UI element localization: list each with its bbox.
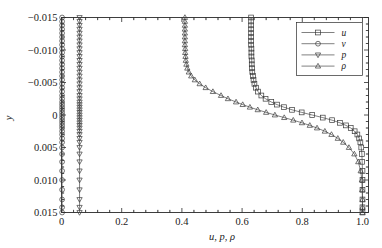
- series-rho: [182, 15, 365, 215]
- y-axis-tick-labels: −0.015−0.010−0.00500.0050.0100.015: [28, 12, 58, 218]
- line-chart: 00.20.40.60.81.0 −0.015−0.010−0.00500.00…: [0, 0, 382, 248]
- y-axis-label: y: [3, 115, 14, 121]
- data-point-marker: [315, 53, 320, 58]
- y-tick-label: 0.005: [34, 142, 58, 153]
- data-point-marker: [203, 85, 208, 90]
- x-tick-label: 0.2: [115, 216, 128, 227]
- data-point-marker: [218, 93, 223, 98]
- x-tick-label: 1.0: [356, 216, 369, 227]
- data-point-marker: [210, 89, 215, 94]
- series-p: [77, 16, 82, 216]
- series-line: [251, 18, 362, 213]
- x-tick-label: 0.8: [296, 216, 309, 227]
- x-tick-label: 0.6: [236, 216, 249, 227]
- data-series-group: [60, 15, 365, 216]
- x-tick-label: 0: [59, 216, 64, 227]
- data-point-marker: [315, 63, 320, 68]
- legend: uvpρ: [297, 23, 363, 76]
- y-tick-label: 0.010: [34, 175, 58, 186]
- x-axis-tick-labels: 00.20.40.60.81.0: [59, 216, 369, 227]
- legend-label-u: u: [342, 28, 347, 38]
- legend-label-v: v: [342, 39, 347, 49]
- legend-border: [297, 23, 363, 76]
- y-tick-label: −0.010: [28, 45, 58, 56]
- y-tick-label: −0.005: [28, 77, 58, 88]
- data-point-marker: [335, 136, 340, 141]
- series-u: [249, 15, 365, 215]
- legend-label-rho: ρ: [341, 61, 347, 71]
- y-tick-label: 0.015: [34, 207, 58, 218]
- y-tick-label: −0.015: [28, 12, 58, 23]
- data-point-marker: [225, 96, 230, 101]
- x-tick-label: 0.4: [175, 216, 189, 227]
- legend-label-p: p: [341, 50, 347, 60]
- x-axis-ticks: [62, 18, 363, 213]
- y-tick-label: 0: [52, 110, 57, 121]
- x-axis-label: u, p, ρ: [209, 231, 235, 242]
- figure-container: 00.20.40.60.81.0 −0.015−0.010−0.00500.00…: [0, 0, 382, 248]
- data-point-marker: [329, 132, 334, 137]
